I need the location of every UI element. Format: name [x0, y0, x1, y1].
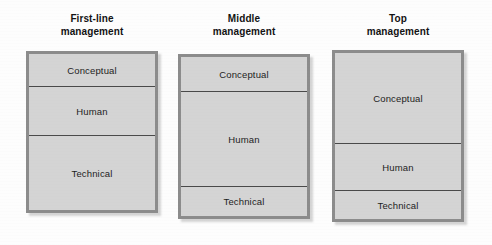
column-top-management: Top management Conceptual Human Technica… — [332, 8, 464, 223]
band-technical: Technical — [181, 187, 307, 216]
column-first-line-management: First-line management Conceptual Human T… — [26, 8, 158, 218]
band-label-conceptual: Conceptual — [373, 93, 423, 104]
managerial-skills-figure: First-line management Conceptual Human T… — [0, 0, 492, 245]
band-technical: Technical — [29, 136, 155, 210]
band-label-conceptual: Conceptual — [67, 65, 117, 76]
column-title-first-line-management: First-line management — [17, 13, 167, 38]
band-human: Human — [181, 92, 307, 187]
band-technical: Technical — [335, 191, 461, 219]
band-human: Human — [29, 87, 155, 136]
band-label-conceptual: Conceptual — [219, 69, 269, 80]
band-human: Human — [335, 144, 461, 191]
band-conceptual: Conceptual — [29, 54, 155, 87]
band-label-technical: Technical — [378, 200, 419, 211]
band-label-human: Human — [228, 134, 259, 145]
band-label-human: Human — [382, 162, 413, 173]
column-middle-management: Middle management Conceptual Human Techn… — [178, 8, 310, 223]
band-label-human: Human — [76, 106, 107, 117]
column-title-middle-management: Middle management — [169, 13, 319, 38]
band-label-technical: Technical — [224, 196, 265, 207]
skill-box-middle-management: Conceptual Human Technical — [178, 54, 310, 219]
column-title-top-management: Top management — [323, 13, 473, 38]
skill-box-top-management: Conceptual Human Technical — [332, 50, 464, 222]
band-conceptual: Conceptual — [335, 53, 461, 144]
skill-box-first-line-management: Conceptual Human Technical — [26, 51, 158, 213]
band-conceptual: Conceptual — [181, 57, 307, 92]
band-label-technical: Technical — [72, 168, 113, 179]
